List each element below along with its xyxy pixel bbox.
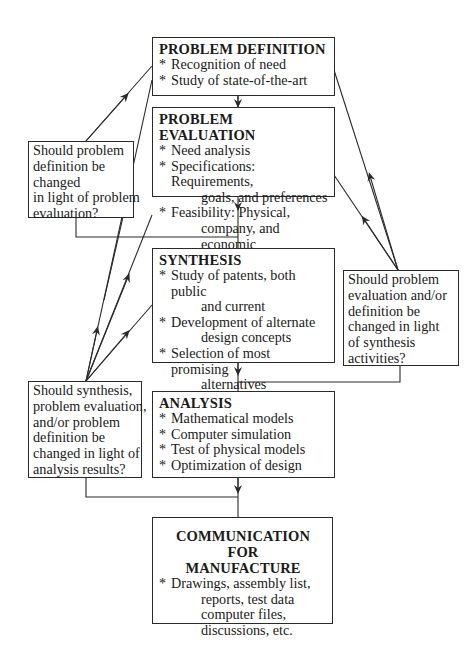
bullet-asterisk: * [159,73,171,89]
stage-title: PROBLEM EVALUATION [159,111,329,143]
stage-items: *Drawings, assembly list,reports, test d… [159,576,327,638]
stage-synthesis: SYNTHESIS *Study of patents, both public… [152,248,335,363]
stage-item: *Development of alternatedesign concepts [159,315,329,346]
stage-items: *Need analysis *Specifications: Requirem… [159,143,329,252]
stage-item: *Drawings, assembly list,reports, test d… [159,576,327,638]
stage-items: *Study of patents, both publicand curren… [159,268,329,393]
stage-title-line-2: MANUFACTURE [159,560,327,576]
stage-problem-evaluation: PROBLEM EVALUATION *Need analysis *Speci… [152,107,335,197]
bullet-asterisk: * [159,143,171,159]
stage-item: *Optimization of design [159,458,329,474]
stage-title: PROBLEM DEFINITION [159,41,329,57]
stage-item: *Specifications: Requirements,goals, and… [159,159,329,206]
question-after-synthesis: Should problem evaluation and/or definit… [343,270,459,366]
stage-items: *Recognition of need *Study of state-of-… [159,57,329,88]
stage-items: *Mathematical models *Computer simulatio… [159,411,329,473]
stage-title: COMMUNICATION FOR [159,528,327,560]
bullet-asterisk: * [159,442,171,458]
bullet-asterisk: * [159,159,171,175]
bullet-asterisk: * [159,411,171,427]
bullet-asterisk: * [159,57,171,73]
stage-item: *Feasibility: Physical,company, and econ… [159,205,329,252]
stage-title: SYNTHESIS [159,252,329,268]
q3-join-line [86,477,238,497]
stage-item: *Mathematical models [159,411,329,427]
question-after-evaluation: Should problem definition be changed in … [28,141,134,218]
bullet-asterisk: * [159,268,171,284]
stage-title: ANALYSIS [159,395,329,411]
stage-item: *Study of state-of-the-art [159,73,329,89]
stage-communication-for-manufacture: COMMUNICATION FOR MANUFACTURE *Drawings,… [152,517,333,624]
stage-item: *Need analysis [159,143,329,159]
stage-analysis: ANALYSIS *Mathematical models *Computer … [152,391,335,478]
bullet-asterisk: * [159,315,171,331]
stage-item: *Recognition of need [159,57,329,73]
stage-item: *Selection of most promisingalternatives [159,346,329,393]
question-after-analysis: Should synthesis, problem evaluation, an… [28,381,142,478]
stage-problem-definition: PROBLEM DEFINITION *Recognition of need … [152,37,335,96]
bullet-asterisk: * [159,458,171,474]
bullet-asterisk: * [159,576,171,592]
bullet-asterisk: * [159,346,171,362]
stage-item: *Test of physical models [159,442,329,458]
stage-item: *Study of patents, both publicand curren… [159,268,329,315]
bullet-asterisk: * [159,427,171,443]
bullet-asterisk: * [159,205,171,221]
stage-item: *Computer simulation [159,427,329,443]
